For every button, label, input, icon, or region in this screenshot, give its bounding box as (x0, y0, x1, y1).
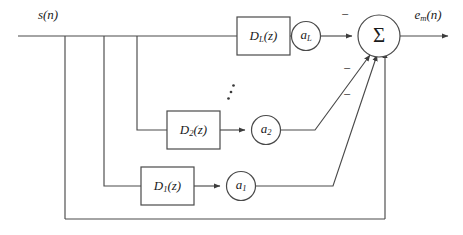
summing-node-group: Σ (358, 15, 400, 57)
feedback-path-bottom (65, 52, 385, 219)
tap-line-branch-1 (104, 36, 141, 186)
signal-flow-diagram: DL(z) aL D2(z) a2 (0, 0, 463, 235)
delay-block-1-label: D1(z) (153, 178, 181, 194)
sign-marks-group: − − − (341, 7, 350, 102)
branch-L-group: DL(z) aL (237, 17, 352, 55)
branch-2-group: D2(z) a2 (167, 55, 370, 149)
input-signal-label: s(n) (38, 7, 58, 22)
delay-block-L-label: DL(z) (249, 28, 278, 44)
summing-node-symbol: Σ (373, 23, 385, 47)
output-signal-label: em(n) (414, 7, 441, 23)
block-diagram-canvas: DL(z) aL D2(z) a2 (0, 0, 463, 235)
tap-line-branch-2 (137, 36, 167, 130)
vertical-dots-icon (227, 84, 235, 100)
minus-sign-branch-2: − (343, 61, 350, 76)
minus-sign-branch-L: − (341, 7, 348, 22)
minus-sign-branch-1: − (343, 87, 350, 102)
delay-block-2-label: D2(z) (179, 122, 207, 138)
